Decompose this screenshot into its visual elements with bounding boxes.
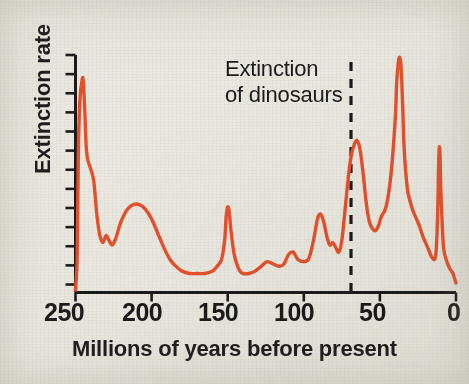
x-axis-title: Millions of years before present [0,338,469,360]
y-axis-title: Extinction rate [32,4,54,194]
extinction-rate-figure: 250 200 150 100 50 0 Millions of years b… [0,0,469,384]
x-tick-label-0: 0 [447,300,460,325]
x-tick-label-150: 150 [198,300,238,325]
extinction-of-dinosaurs-annotation: Extinction of dinosaurs [225,56,342,108]
annotation-line-1: Extinction [225,56,342,82]
x-tick-label-250: 250 [44,300,84,325]
annotation-line-2: of dinosaurs [225,82,342,108]
x-tick-label-200: 200 [122,300,162,325]
x-tick-label-50: 50 [359,300,386,325]
x-tick-label-100: 100 [274,300,314,325]
